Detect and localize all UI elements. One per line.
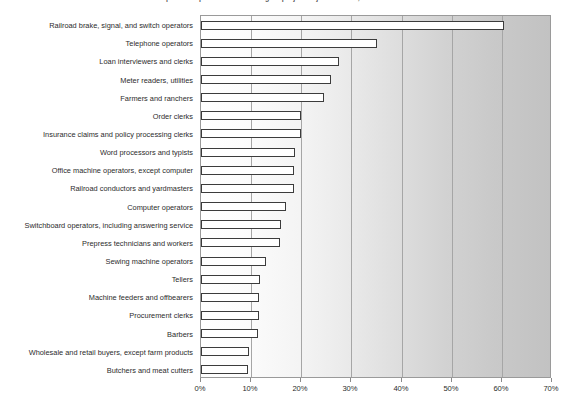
x-tick-mark bbox=[451, 378, 452, 382]
gridline-50 bbox=[452, 16, 453, 377]
category-axis: Railroad brake, signal, and switch opera… bbox=[0, 16, 197, 378]
gridline-40 bbox=[402, 16, 403, 377]
x-tick-mark bbox=[401, 378, 402, 382]
bar bbox=[201, 21, 504, 30]
x-tick-mark bbox=[551, 378, 552, 382]
category-label: Butchers and meat cutters bbox=[0, 366, 193, 375]
bar bbox=[201, 275, 260, 284]
category-label: Telephone operators bbox=[0, 39, 193, 48]
x-tick-label: 50% bbox=[436, 384, 466, 394]
plot-area bbox=[200, 15, 551, 378]
category-label: Tellers bbox=[0, 275, 193, 284]
category-label: Machine feeders and offbearers bbox=[0, 293, 193, 302]
category-label: Wholesale and retail buyers, except farm… bbox=[0, 348, 193, 357]
bar bbox=[201, 311, 259, 320]
x-tick-label: 0% bbox=[185, 384, 215, 394]
x-tick-mark bbox=[200, 378, 201, 382]
gridline-30 bbox=[351, 16, 352, 377]
bar bbox=[201, 293, 259, 302]
chart-title: Top 20 occupations with the largest proj… bbox=[0, 0, 554, 2]
category-label: Order clerks bbox=[0, 112, 193, 121]
bar bbox=[201, 111, 301, 120]
category-label: Railroad brake, signal, and switch opera… bbox=[0, 21, 193, 30]
x-tick-mark bbox=[350, 378, 351, 382]
category-label: Sewing machine operators bbox=[0, 257, 193, 266]
bar bbox=[201, 148, 295, 157]
category-label: Computer operators bbox=[0, 203, 193, 212]
bar bbox=[201, 75, 331, 84]
category-label: Switchboard operators, including answeri… bbox=[0, 221, 193, 230]
category-label: Barbers bbox=[0, 330, 193, 339]
gridline-60 bbox=[502, 16, 503, 377]
bar bbox=[201, 39, 377, 48]
category-label: Word processors and typists bbox=[0, 148, 193, 157]
bar bbox=[201, 93, 324, 102]
category-label: Prepress technicians and workers bbox=[0, 239, 193, 248]
bar bbox=[201, 184, 294, 193]
value-axis: 0%10%20%30%40%50%60%70% bbox=[200, 378, 551, 404]
x-tick-label: 10% bbox=[235, 384, 265, 394]
category-label: Procurement clerks bbox=[0, 311, 193, 320]
category-label: Loan interviewers and clerks bbox=[0, 57, 193, 66]
x-tick-label: 70% bbox=[536, 384, 563, 394]
gridline-10 bbox=[251, 16, 252, 377]
x-tick-label: 20% bbox=[285, 384, 315, 394]
bar bbox=[201, 365, 248, 374]
x-tick-mark bbox=[300, 378, 301, 382]
bar bbox=[201, 202, 286, 211]
bar bbox=[201, 238, 280, 247]
x-tick-mark bbox=[501, 378, 502, 382]
category-label: Meter readers, utilities bbox=[0, 76, 193, 85]
x-tick-label: 40% bbox=[386, 384, 416, 394]
category-label: Farmers and ranchers bbox=[0, 94, 193, 103]
bar bbox=[201, 129, 301, 138]
bar bbox=[201, 329, 258, 338]
x-tick-mark bbox=[250, 378, 251, 382]
bar bbox=[201, 166, 294, 175]
category-label: Insurance claims and policy processing c… bbox=[0, 130, 193, 139]
bar bbox=[201, 57, 339, 66]
bar bbox=[201, 347, 249, 356]
bar bbox=[201, 220, 281, 229]
x-tick-label: 30% bbox=[335, 384, 365, 394]
x-tick-label: 60% bbox=[486, 384, 516, 394]
bar bbox=[201, 257, 266, 266]
gridline-20 bbox=[301, 16, 302, 377]
category-label: Railroad conductors and yardmasters bbox=[0, 184, 193, 193]
category-label: Office machine operators, except compute… bbox=[0, 166, 193, 175]
